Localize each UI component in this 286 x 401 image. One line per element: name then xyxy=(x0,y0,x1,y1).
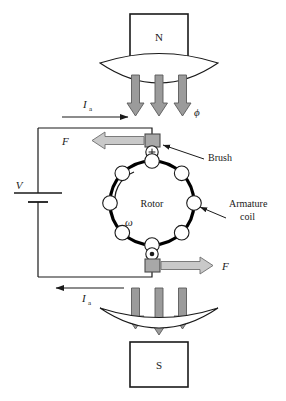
brush-label: Brush xyxy=(208,152,232,163)
armature-coil xyxy=(187,196,202,211)
armature-coil-label-line2: coil xyxy=(240,211,255,222)
diagram-canvas: N ϕ I a xyxy=(0,0,286,401)
force-top-label: F xyxy=(61,135,69,147)
flux-symbol-label: ϕ xyxy=(194,106,200,118)
armature-coil xyxy=(174,166,189,181)
bottom-brush xyxy=(145,259,160,272)
force-bottom-label: F xyxy=(221,260,229,272)
rotor-label: Rotor xyxy=(141,198,164,209)
armature-coil xyxy=(115,225,130,240)
armature-coil xyxy=(103,196,118,211)
armature-coil xyxy=(145,154,160,169)
armature-coil xyxy=(174,225,189,240)
bottom-commutator-dot xyxy=(150,252,155,257)
armature-coil xyxy=(115,166,130,181)
armature-coil-label-line1: Armature xyxy=(229,198,268,209)
bottom-brush-group xyxy=(145,248,160,272)
rotor-group: Rotor ω xyxy=(103,154,202,253)
top-brush xyxy=(145,134,160,147)
north-pole-label: N xyxy=(155,31,163,43)
dc-motor-diagram: N ϕ I a xyxy=(0,0,286,401)
south-pole-label: S xyxy=(156,359,162,371)
